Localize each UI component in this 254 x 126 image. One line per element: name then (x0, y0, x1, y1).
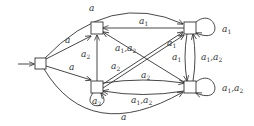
label-s-n4: a (121, 112, 126, 122)
edge-s-n4 (44, 69, 183, 114)
label-n2-n3-a1: a1​ (167, 38, 176, 49)
node-n4 (184, 81, 196, 93)
label-n3-n4: a1​ (172, 52, 181, 63)
edge-n4-n2 (103, 91, 184, 95)
node-n2 (91, 81, 103, 93)
loop-n4 (196, 78, 215, 95)
automaton-diagram: a a a a a1​ a1​ a1​,a2​ a2​ a2​ a2​ a1​ … (0, 0, 254, 126)
label-loop-n2: a2​ (92, 96, 101, 107)
label-s-n3: a (89, 3, 94, 13)
label-n2-n3-a2: a2​ (111, 61, 120, 72)
label-s-n2: a (69, 62, 74, 72)
edge-n3-n4 (185, 34, 187, 81)
label-n4-n1: a1​,a2​ (115, 43, 136, 54)
label-n4-n2: a1​,a2​ (131, 95, 152, 106)
label-n4-n3: a1​,a2​ (201, 52, 222, 63)
label-n2-n1: a2​ (81, 49, 90, 60)
node-n1 (91, 22, 103, 34)
label-n3-n1: a1​ (139, 16, 148, 27)
label-n2-n4: a2​ (141, 70, 150, 81)
label-loop-n3: a1​ (222, 24, 231, 35)
label-s-n1: a (65, 35, 70, 45)
node-n3 (184, 22, 196, 34)
loop-n3 (196, 18, 215, 35)
label-loop-n4: a1​,a2​ (222, 83, 243, 94)
node-start (35, 58, 46, 69)
edge-n4-n3 (193, 34, 195, 81)
